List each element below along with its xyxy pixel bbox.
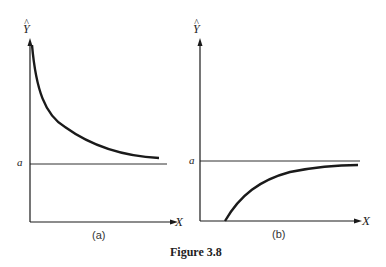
curve-a — [32, 45, 159, 158]
y-arrow-a — [28, 38, 33, 46]
y-label-a: Y — [23, 22, 30, 37]
panel-label-b: (b) — [272, 228, 285, 240]
panel-b — [198, 38, 363, 224]
figure-caption: Figure 3.8 — [170, 245, 222, 260]
x-arrow-b — [354, 219, 362, 224]
x-label-b: X — [362, 213, 370, 229]
y-label-b: Y — [193, 22, 200, 37]
y-arrow-b — [198, 38, 203, 46]
curve-b — [225, 165, 358, 221]
panel-a — [28, 38, 179, 225]
x-label-a: X — [175, 214, 183, 230]
figure-canvas — [0, 0, 386, 267]
asymptote-label-b: a — [189, 154, 195, 166]
asymptote-label-a: a — [17, 156, 23, 168]
panel-label-a: (a) — [92, 229, 105, 241]
